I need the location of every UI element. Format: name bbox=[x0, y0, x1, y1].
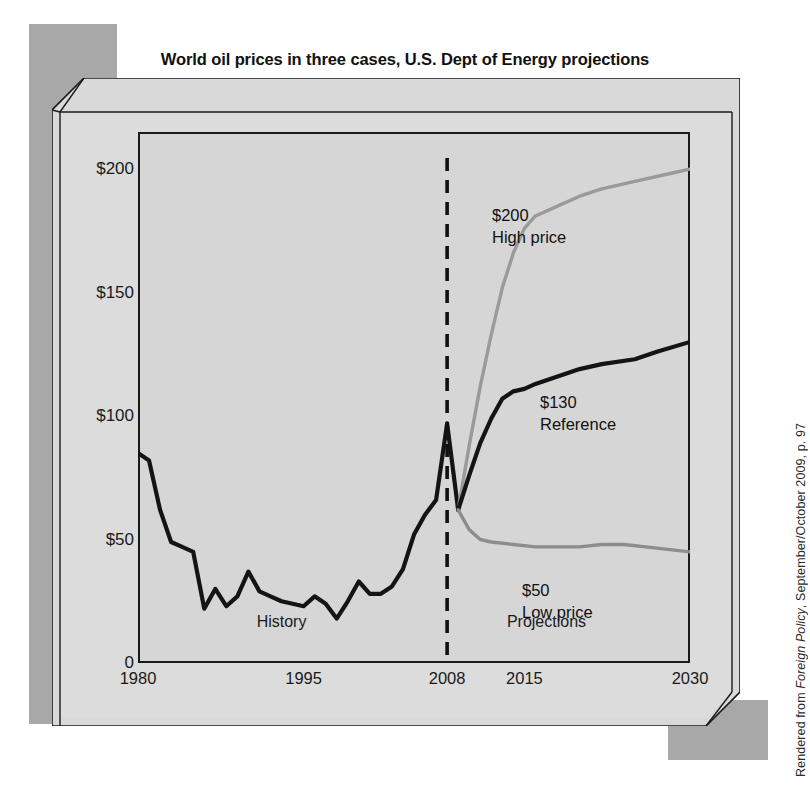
annotation-low-price-name: Low price bbox=[522, 602, 593, 624]
y-tick: $200 bbox=[96, 159, 134, 179]
annotation-high-price: $200 High price bbox=[492, 205, 566, 249]
annotation-low-price: $50 Low price bbox=[522, 580, 593, 624]
credit-suffix: , September/October 2009, p. 97 bbox=[794, 423, 808, 608]
x-tick: 2030 bbox=[672, 669, 709, 688]
series-line-low-price bbox=[458, 510, 690, 552]
annotation-high-price-value: $200 bbox=[492, 205, 566, 227]
annotation-reference: $130 Reference bbox=[540, 392, 616, 436]
y-tick: $100 bbox=[96, 406, 134, 426]
annotation-reference-value: $130 bbox=[540, 392, 616, 414]
annotation-low-price-value: $50 bbox=[522, 580, 593, 602]
region-label-history: History bbox=[257, 613, 307, 631]
credit-source: Foreign Policy bbox=[794, 608, 808, 689]
series-line-history bbox=[138, 423, 458, 618]
y-axis-ticks: $200 $150 $100 $50 0 bbox=[42, 132, 134, 663]
credit-prefix: Rendered from bbox=[794, 689, 808, 777]
y-tick: $150 bbox=[96, 283, 134, 303]
source-credit: Rendered from Foreign Policy, September/… bbox=[794, 423, 808, 777]
chart-title: World oil prices in three cases, U.S. De… bbox=[0, 50, 810, 69]
x-tick: 1995 bbox=[285, 669, 322, 688]
annotation-reference-name: Reference bbox=[540, 414, 616, 436]
x-tick: 2008 bbox=[429, 669, 466, 688]
y-tick: $50 bbox=[106, 530, 134, 550]
chart-figure: World oil prices in three cases, U.S. De… bbox=[0, 0, 810, 799]
x-tick: 2015 bbox=[506, 669, 543, 688]
annotation-high-price-name: High price bbox=[492, 227, 566, 249]
x-tick: 1980 bbox=[120, 669, 157, 688]
